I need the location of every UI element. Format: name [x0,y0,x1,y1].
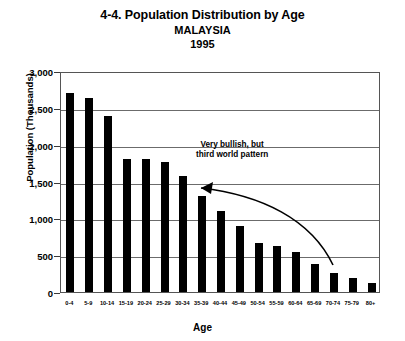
bar [198,196,206,292]
bar [292,252,300,292]
chart-subtitle: MALAYSIA [0,23,405,37]
bar-slot [306,73,325,292]
x-axis-tick-label: 60-64 [288,300,302,306]
bar-slot [61,73,80,292]
bar-slot [287,73,306,292]
y-axis-tick-label: 500 [9,251,53,262]
bar [273,246,281,292]
y-axis-tick-label: 2,500 [9,103,53,114]
x-axis-tick-label: 75-79 [345,300,359,306]
y-axis-tick-label: 1,000 [9,214,53,225]
bar-slot [136,73,155,292]
bar [179,176,187,292]
x-axis-tick-label: 45-49 [232,300,246,306]
chart-year: 1995 [0,37,405,51]
y-axis-tick-label: 3,000 [9,67,53,78]
bar [161,162,169,292]
y-axis-tick-label: 1,500 [9,177,53,188]
annotation-line-1: Very bullish, but [196,140,268,150]
x-axis-tick-label: 30-34 [175,300,189,306]
bar [349,278,357,292]
bar-slot [174,73,193,292]
bar [104,116,112,292]
bar-slot [343,73,362,292]
chart-annotation: Very bullish, but third world pattern [196,140,268,160]
x-axis-tick-label: 25-29 [156,300,170,306]
x-axis-title: Age [0,322,405,333]
bar [85,98,93,292]
bar-slot [117,73,136,292]
bar [236,226,244,292]
bar-slot [325,73,344,292]
bar [311,264,319,292]
bar-slot [212,73,231,292]
y-axis-tick-label: 0 [9,288,53,299]
bar [123,159,131,292]
bar [66,93,74,292]
x-axis-tick-label: 65-69 [307,300,321,306]
bar-slot [268,73,287,292]
bar-slot [362,73,381,292]
bar-slot [230,73,249,292]
x-axis-tick-label: 50-54 [250,300,264,306]
bar [142,159,150,292]
bar-slot [249,73,268,292]
bar-slot [80,73,99,292]
bar [368,283,376,292]
plot-area [60,72,380,293]
bar-slot [99,73,118,292]
bar [255,243,263,292]
y-axis-tick-label: 2,000 [9,140,53,151]
x-axis-tick-label: 80+ [366,300,376,306]
x-axis-tick-label: 0-4 [65,300,73,306]
x-axis-tick-label: 35-39 [194,300,208,306]
x-axis-tick-label: 70-74 [326,300,340,306]
chart-title-block: 4-4. Population Distribution by Age MALA… [0,8,405,51]
y-axis-tick-mark [54,293,60,294]
chart-title: 4-4. Population Distribution by Age [0,8,405,23]
annotation-line-2: third world pattern [196,150,268,160]
x-axis-tick-label: 40-44 [213,300,227,306]
bar [330,273,338,292]
bar-slot [193,73,212,292]
bar [217,211,225,292]
y-axis-ticks: 3,0002,5002,0001,5001,0005000 [0,0,60,341]
x-axis-tick-label: 15-19 [119,300,133,306]
x-axis-tick-label: 20-24 [138,300,152,306]
bar-series [61,73,379,292]
x-axis-ticks: 0-45-910-1415-1920-2425-2930-3435-3940-4… [60,295,380,313]
x-axis-tick-label: 10-14 [100,300,114,306]
bar-slot [155,73,174,292]
x-axis-tick-label: 5-9 [84,300,92,306]
x-axis-tick-label: 55-59 [269,300,283,306]
